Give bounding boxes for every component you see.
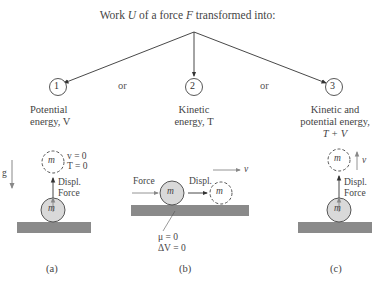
option-1-label: Potentialenergy, V (30, 104, 76, 128)
velocity-label-b: v (244, 164, 248, 174)
displ-label-c: Displ. (344, 177, 367, 187)
mass-b-right-label: m (216, 186, 223, 196)
ground-a (17, 222, 91, 233)
velocity-label-c: v (362, 155, 366, 165)
branch-arrows (64, 32, 326, 83)
panel-b-equations: μ = 0ΔV = 0 (158, 232, 186, 254)
mass-c-top-label: m (334, 153, 341, 163)
mass-c-bottom-label: m (334, 203, 341, 213)
ground-c (298, 222, 372, 233)
ground-b (131, 205, 249, 216)
diagram-graphics (0, 0, 375, 281)
or-connector-2: or (260, 80, 269, 91)
option-2-label: Kineticenergy, T (164, 104, 224, 128)
force-label-c: Force (344, 188, 366, 198)
caption-a: (a) (46, 263, 58, 274)
caption-b: (b) (179, 263, 191, 274)
displ-label-b: Displ. (189, 176, 212, 186)
option-3-number: 3 (330, 80, 335, 91)
gravity-label: g (2, 168, 7, 178)
force-label-a: Force (58, 188, 80, 198)
or-connector-1: or (118, 80, 127, 91)
mass-a-top-label: m (48, 155, 55, 165)
mass-a-bottom-label: m (48, 203, 55, 213)
mass-b-left-label: m (167, 186, 174, 196)
displ-label-a: Displ. (58, 177, 81, 187)
option-1-number: 1 (54, 80, 59, 91)
caption-c: (c) (330, 263, 342, 274)
force-label-b: Force (133, 176, 155, 186)
diagram-title: Work U of a force F transformed into: (0, 9, 375, 21)
panel-a-equations: v = 0T = 0 (67, 151, 88, 171)
option-2-number: 2 (190, 80, 195, 91)
option-3-label: Kinetic andpotential energy,T + V (296, 104, 374, 140)
